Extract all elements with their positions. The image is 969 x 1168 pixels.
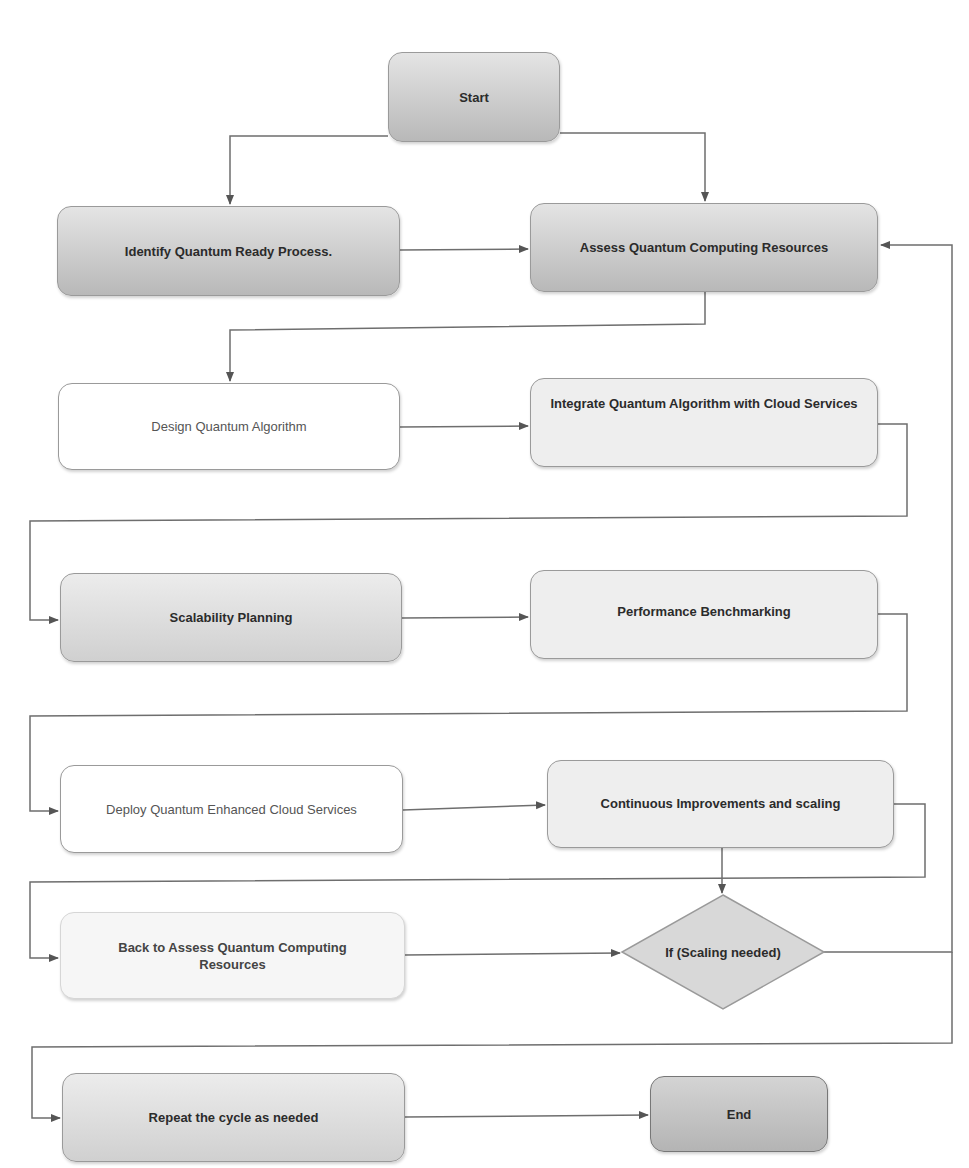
node-repeat-label: Repeat the cycle as needed: [149, 1109, 319, 1126]
node-end-label: End: [727, 1106, 752, 1123]
node-assess-label: Assess Quantum Computing Resources: [580, 239, 829, 256]
node-design-label: Design Quantum Algorithm: [151, 418, 306, 435]
node-identify-label: Identify Quantum Ready Process.: [125, 243, 332, 260]
node-assess: Assess Quantum Computing Resources: [530, 203, 878, 292]
node-repeat: Repeat the cycle as needed: [62, 1073, 405, 1162]
node-design: Design Quantum Algorithm: [58, 383, 400, 470]
node-benchmark: Performance Benchmarking: [530, 570, 878, 659]
node-identify: Identify Quantum Ready Process.: [57, 206, 400, 296]
node-improve-label: Continuous Improvements and scaling: [601, 795, 841, 812]
edge-design-integrate: [400, 426, 528, 427]
node-start-label: Start: [459, 89, 489, 106]
node-decision-label: If (Scaling needed): [643, 940, 803, 964]
node-integrate: Integrate Quantum Algorithm with Cloud S…: [530, 378, 878, 467]
edge-back-decision: [405, 953, 620, 955]
edge-scalability-benchmark: [402, 617, 528, 618]
node-back-label: Back to Assess Quantum Computing Resourc…: [88, 939, 378, 973]
node-benchmark-label: Performance Benchmarking: [617, 603, 790, 620]
node-scalability: Scalability Planning: [60, 573, 402, 662]
edge-deploy-improve: [403, 805, 545, 810]
node-deploy-label: Deploy Quantum Enhanced Cloud Services: [106, 801, 357, 818]
node-scalability-label: Scalability Planning: [170, 609, 293, 626]
edge-start-assess: [560, 133, 705, 201]
flowchart: Start Identify Quantum Ready Process. As…: [0, 0, 969, 1168]
edge-start-identify: [230, 136, 388, 204]
edge-repeat-end: [405, 1115, 648, 1117]
node-deploy: Deploy Quantum Enhanced Cloud Services: [60, 765, 403, 853]
node-back: Back to Assess Quantum Computing Resourc…: [60, 912, 405, 999]
edge-identify-assess: [400, 249, 528, 250]
edge-assess-design: [230, 292, 705, 381]
node-improve: Continuous Improvements and scaling: [547, 760, 894, 848]
node-end: End: [650, 1076, 828, 1152]
node-start: Start: [388, 52, 560, 142]
node-integrate-label: Integrate Quantum Algorithm with Cloud S…: [550, 395, 857, 412]
